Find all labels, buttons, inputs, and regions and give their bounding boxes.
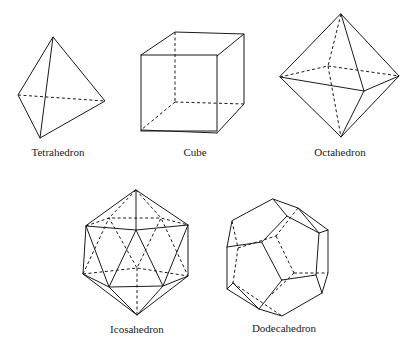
dodecahedron-label: Dodecahedron — [252, 322, 316, 334]
cube-label: Cube — [183, 146, 206, 158]
icosahedron-label: Icosahedron — [110, 323, 164, 335]
tetrahedron-drawing — [18, 37, 105, 138]
cube-drawing — [141, 32, 244, 133]
tetrahedron-label: Tetrahedron — [32, 146, 85, 158]
octahedron-drawing — [280, 14, 399, 137]
dodecahedron-drawing — [227, 199, 328, 316]
icosahedron-drawing — [83, 190, 188, 315]
platonic-solids-diagram — [0, 0, 420, 346]
octahedron-label: Octahedron — [314, 146, 365, 158]
